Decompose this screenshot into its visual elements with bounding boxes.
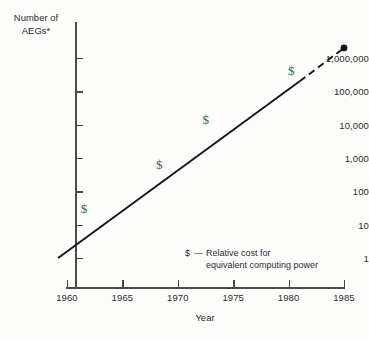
legend-text-line-2: equivalent computing power <box>206 260 318 270</box>
x-tick-1980 <box>289 280 290 287</box>
endpoint-marker <box>341 45 348 52</box>
legend-row-1: $—Relative cost for <box>185 247 318 259</box>
y-axis-line <box>75 22 77 288</box>
y-tick-label-1000000: 1,000,000 <box>303 53 369 64</box>
y-tick-1000 <box>76 158 83 159</box>
chart-legend: $—Relative cost for equivalent computing… <box>185 247 318 271</box>
legend-text-line-1: Relative cost for <box>206 248 271 258</box>
x-tick-1960 <box>67 280 68 287</box>
y-tick-1 <box>76 258 83 259</box>
dollar-annotation-3: $ <box>203 113 210 126</box>
legend-dash-icon: — <box>194 247 206 259</box>
x-tick-1970 <box>178 280 179 287</box>
dollar-annotation-2: $ <box>156 158 163 171</box>
y-tick-100 <box>76 191 83 192</box>
x-tick-label-1975: 1975 <box>213 292 253 303</box>
dollar-annotation-4: $ <box>288 64 295 77</box>
x-tick-label-1970: 1970 <box>158 292 198 303</box>
x-tick-label-1985: 1985 <box>324 292 364 303</box>
x-tick-label-1980: 1980 <box>269 292 309 303</box>
y-tick-10000 <box>76 125 83 126</box>
y-tick-label-100: 100 <box>303 186 369 197</box>
y-tick-label-1000: 1,000 <box>303 153 369 164</box>
x-tick-1985 <box>344 280 345 287</box>
y-tick-label-100000: 100,000 <box>303 86 369 97</box>
x-tick-label-1960: 1960 <box>47 292 87 303</box>
y-tick-1000000 <box>76 58 83 59</box>
y-tick-10 <box>76 225 83 226</box>
dollar-annotation-1: $ <box>81 202 88 215</box>
legend-dollar-symbol: $ <box>185 247 194 259</box>
legend-row-2: equivalent computing power <box>185 259 318 271</box>
y-tick-label-10000: 10,000 <box>303 120 369 131</box>
chart-figure: Number of AEGs* 1,000,000 100,000 10,000… <box>0 0 369 339</box>
x-tick-1965 <box>122 280 123 287</box>
x-axis-title: Year <box>160 312 250 323</box>
y-tick-label-10: 10 <box>303 220 369 231</box>
x-tick-1975 <box>233 280 234 287</box>
x-tick-label-1965: 1965 <box>102 292 142 303</box>
y-axis-title: Number of AEGs* <box>0 12 72 37</box>
data-line-1 <box>58 81 300 258</box>
x-axis-line <box>66 287 345 289</box>
y-tick-100000 <box>76 91 83 92</box>
